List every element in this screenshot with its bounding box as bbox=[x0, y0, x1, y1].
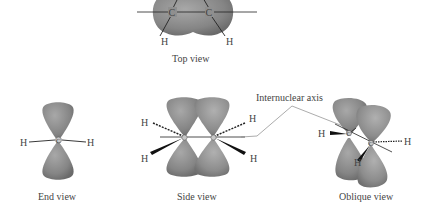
oblique-wedge-bond-left bbox=[330, 131, 347, 135]
internuclear-axis-label: Internuclear axis bbox=[256, 92, 323, 103]
end-upper-lobe bbox=[42, 102, 73, 140]
side-h-top-left-label: H bbox=[141, 117, 148, 128]
side-h-top-right-label: H bbox=[249, 113, 256, 124]
side-h-bottom-right-label: H bbox=[250, 153, 257, 164]
end-view: C H H End view bbox=[20, 102, 94, 202]
oblique-c1-label: C bbox=[347, 130, 352, 138]
top-view-caption: Top view bbox=[172, 53, 210, 64]
oblique-view: C C H H H Oblique view bbox=[318, 98, 411, 202]
oblique-view-caption: Oblique view bbox=[339, 191, 394, 202]
oblique-h-bottom-label: H bbox=[354, 157, 361, 168]
end-lower-lobe bbox=[42, 142, 73, 180]
top-h1-label: H bbox=[161, 36, 168, 47]
end-bond-left bbox=[29, 140, 55, 142]
side-view-caption: Side view bbox=[177, 191, 217, 202]
end-c-label: C bbox=[56, 137, 61, 145]
side-lower-lobe-right bbox=[195, 139, 230, 177]
end-view-caption: End view bbox=[38, 191, 77, 202]
top-c1-label: C bbox=[169, 7, 176, 18]
oblique-h-left-label: H bbox=[318, 128, 325, 139]
internuclear-axis-annotation: Internuclear axis bbox=[241, 92, 348, 137]
side-view: H H H H Side view bbox=[141, 97, 257, 202]
oblique-h-right-label: H bbox=[404, 136, 411, 147]
end-h-right-label: H bbox=[87, 137, 94, 148]
oblique-hashed-bond-right bbox=[373, 141, 403, 142]
top-view: C C H H Top view bbox=[137, 0, 257, 64]
oblique-c2-label: C bbox=[369, 140, 374, 148]
pi-bond-diagram: C C H H Top view C H H End view H H H H … bbox=[0, 0, 434, 216]
oblique-lower-lobe-right bbox=[357, 146, 387, 187]
top-h2-label: H bbox=[226, 36, 233, 47]
oblique-upper-lobe-right bbox=[356, 105, 390, 142]
end-bond-right bbox=[62, 140, 86, 142]
end-h-left-label: H bbox=[20, 137, 27, 148]
side-upper-lobe-right bbox=[195, 97, 230, 136]
top-c2-label: C bbox=[206, 7, 213, 18]
side-h-bottom-left-label: H bbox=[141, 153, 148, 164]
